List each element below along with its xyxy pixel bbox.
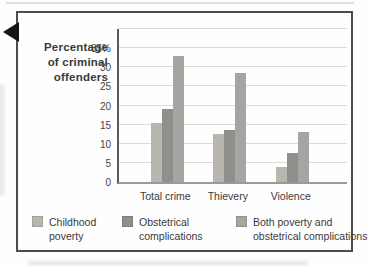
bar-obstetrical-complications [287, 153, 298, 182]
legend-label: Childhoodpoverty [49, 215, 96, 243]
y-tick-label: 15 [79, 120, 111, 132]
y-tick-label: 25 [79, 81, 111, 93]
bar-childhood-poverty [276, 167, 287, 182]
legend-label-line: Childhood [49, 215, 96, 229]
bar-childhood-poverty [213, 134, 224, 182]
y-tick-label: 20 [79, 101, 111, 113]
legend-label-line: Both poverty and [253, 215, 367, 229]
gridline [119, 85, 347, 86]
legend: ChildhoodpovertyObstetricalcomplications… [18, 215, 351, 247]
scan-artifact-left [0, 84, 7, 196]
scanned-page: Percentage of criminal offenders Childho… [0, 0, 370, 267]
legend-label-line: Obstetrical [139, 215, 203, 229]
bar-both-poverty-and-obstetrical-complications [173, 56, 184, 182]
legend-item: Childhoodpoverty [32, 215, 96, 243]
x-category-label: Thievery [208, 190, 248, 202]
bar-both-poverty-and-obstetrical-complications [298, 132, 309, 182]
gridline [119, 28, 347, 29]
legend-label-line: obstetrical complications [253, 229, 367, 243]
legend-swatch [236, 216, 247, 227]
bar-obstetrical-complications [162, 109, 173, 182]
gridline [119, 66, 347, 67]
x-category-label: Violence [271, 190, 311, 202]
y-tick-label: 10 [79, 139, 111, 151]
legend-item: Both poverty andobstetrical complication… [236, 215, 367, 243]
scan-artifact-top [6, 2, 354, 4]
bar-childhood-poverty [151, 123, 162, 182]
bar-obstetrical-complications [224, 130, 235, 182]
y-tick-label: 30 [79, 62, 111, 74]
legend-label-line: poverty [49, 229, 96, 243]
legend-swatch [122, 216, 133, 227]
bar-both-poverty-and-obstetrical-complications [235, 73, 246, 182]
legend-label-line: complications [139, 229, 203, 243]
scan-artifact-bottom [28, 261, 308, 265]
gridline [119, 105, 347, 106]
legend-item: Obstetricalcomplications [122, 215, 203, 243]
plot-area [117, 29, 347, 184]
y-tick-label: 5 [79, 158, 111, 170]
legend-label: Obstetricalcomplications [139, 215, 203, 243]
legend-swatch [32, 216, 43, 227]
y-tick-label: 35% [79, 43, 111, 55]
chart-panel: Percentage of criminal offenders Childho… [16, 11, 353, 252]
legend-label: Both poverty andobstetrical complication… [253, 215, 367, 243]
gridline [119, 47, 347, 48]
corner-marker-triangle [3, 22, 19, 42]
x-category-label: Total crime [140, 190, 191, 202]
y-tick-label: 0 [79, 177, 111, 189]
